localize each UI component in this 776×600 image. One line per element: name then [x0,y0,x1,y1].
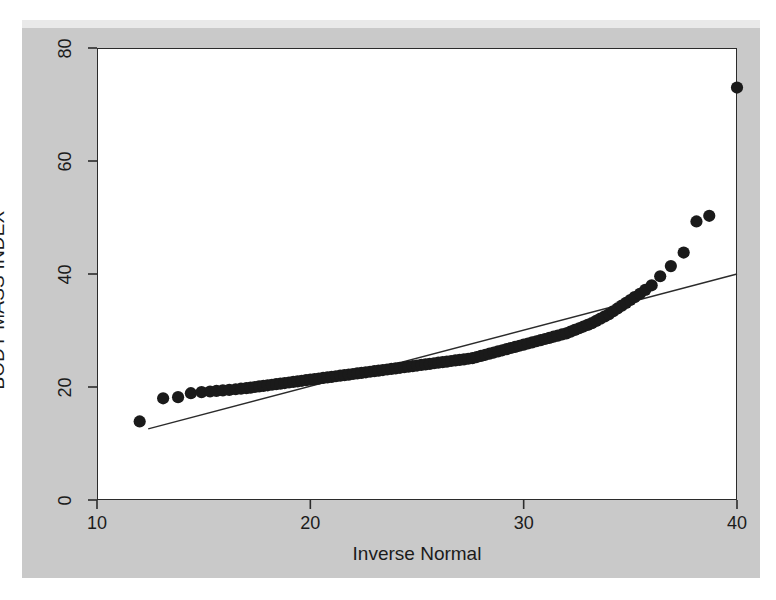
x-tick-label: 40 [712,513,762,534]
qq-plot-figure: BODY MASS INDEX Inverse Normal 020406080… [0,0,776,600]
x-tick-label: 30 [499,513,549,534]
plot-canvas [0,0,776,600]
reference-line [148,274,737,429]
x-tick-label: 10 [72,513,122,534]
x-axis-title: Inverse Normal [97,543,737,565]
y-tick-label: 60 [55,142,76,182]
x-tick-label: 20 [285,513,335,534]
y-tick-label: 40 [55,255,76,295]
y-axis-title: BODY MASS INDEX [0,150,9,450]
data-points [134,81,744,427]
tick-marks [88,48,737,509]
y-tick-label: 20 [55,368,76,408]
y-tick-label: 80 [55,29,76,69]
